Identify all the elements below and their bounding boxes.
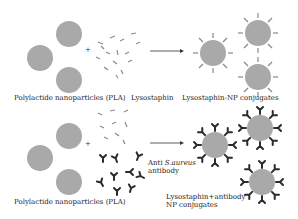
label-antibody-prefix: Anti	[148, 159, 165, 167]
label-antibody-word: antibody	[148, 167, 179, 175]
plus-sign-row1: +	[85, 46, 91, 54]
label-lysostaphin-antibody-conjugates: Lysostaphin+antibodyNP conjugates	[166, 193, 245, 209]
label-pla-row2: Polylactide nanoparticles (PLA)	[14, 198, 126, 206]
antibodies-row2	[97, 152, 146, 195]
plus-sign-row2: +	[85, 140, 91, 148]
label-anti-saureus-antibody: Anti S.aureusantibody	[148, 159, 196, 175]
label-conjugates-line2: NP conjugates	[166, 201, 218, 209]
label-pla-row1: Polylactide nanoparticles (PLA)	[14, 94, 126, 102]
lysostaphin-antibody-np-conjugates	[194, 107, 283, 203]
pla-nanoparticles-row2	[27, 123, 82, 195]
label-conjugates-line1: Lysostaphin+antibody	[166, 193, 245, 201]
lysostaphin-enzymes-row2	[98, 110, 128, 144]
label-antibody-species: S.aureus	[165, 159, 196, 167]
pla-nanoparticles-row1	[27, 21, 82, 93]
label-lysostaphin: Lysostaphin	[131, 94, 174, 102]
label-lysostaphin-np-conjugates: Lysostaphin-NP conjugates	[182, 94, 279, 102]
lysostaphin-enzymes-row1	[96, 33, 140, 78]
diagram-canvas: +	[0, 0, 298, 219]
lysostaphin-np-conjugates	[193, 13, 278, 97]
